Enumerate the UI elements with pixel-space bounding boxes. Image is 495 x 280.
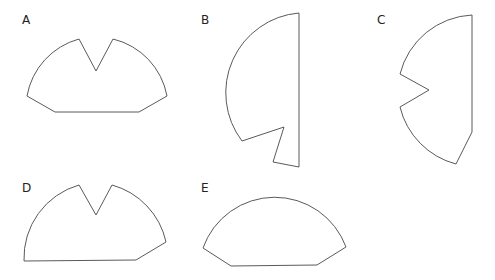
label-c: C bbox=[377, 14, 385, 26]
shape-b bbox=[226, 13, 299, 167]
label-b: B bbox=[201, 14, 209, 26]
shape-e bbox=[203, 197, 346, 266]
shape-d bbox=[24, 185, 166, 261]
figure-canvas: A B C D E bbox=[0, 0, 495, 280]
shapes-svg bbox=[0, 0, 495, 280]
shape-a bbox=[27, 39, 167, 112]
label-a: A bbox=[22, 14, 30, 26]
label-e: E bbox=[201, 182, 209, 194]
shape-c bbox=[400, 15, 472, 164]
label-d: D bbox=[22, 182, 31, 194]
